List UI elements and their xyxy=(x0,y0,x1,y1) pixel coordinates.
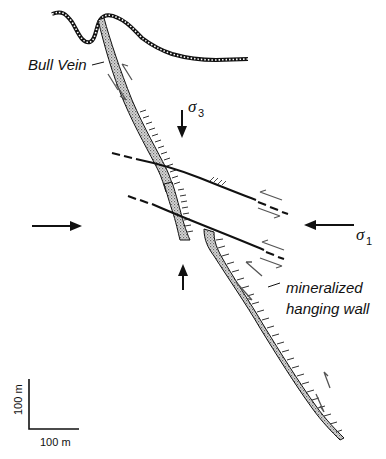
lower-fault xyxy=(128,196,284,259)
sigma1-arrow-right xyxy=(32,221,82,231)
upper-fault xyxy=(112,153,288,214)
sigma1-arrow-left xyxy=(304,220,354,230)
sigma1-subscript: 1 xyxy=(366,235,372,247)
mineralized-label-line1: mineralized xyxy=(286,279,363,296)
mineralized-label-line2: hanging wall xyxy=(286,300,370,317)
sigma3-arrow-up xyxy=(178,264,188,290)
sigma1-label: σ xyxy=(356,225,365,244)
bull-vein-label: Bull Vein xyxy=(28,56,87,73)
geologic-cross-section: Bull Vein σ 3 σ 1 mineralized hanging wa… xyxy=(0,0,386,459)
mineralized-leader xyxy=(268,283,280,287)
sigma3-arrow-down xyxy=(177,110,187,138)
scale-bar: 100 m 100 m xyxy=(12,379,79,448)
scale-vertical-label: 100 m xyxy=(12,384,24,415)
sigma3-label: σ xyxy=(188,97,197,116)
scale-horizontal-label: 100 m xyxy=(40,436,71,448)
bull-vein-leader xyxy=(92,62,104,65)
ground-surface xyxy=(52,12,248,60)
shear-arrows xyxy=(108,64,330,412)
sigma3-subscript: 3 xyxy=(198,107,204,119)
